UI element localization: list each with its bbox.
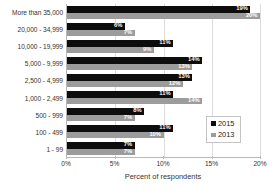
x-tick-mark [163,156,164,159]
bar-value-label: 14% [188,57,202,63]
legend-item-2015[interactable]: 2015 [211,120,234,127]
bar-2015[interactable]: 11% [67,91,173,98]
bar-row: 7% [67,30,260,37]
bar-row: 19% [67,6,260,13]
bar-value-label: 13% [178,74,192,80]
category-axis-labels: More than 35,000 20,000 - 34,999 10,000 … [0,4,66,158]
bar-value-label: 11% [159,125,173,131]
bar-row: 13% [67,74,260,81]
category-label: 10,000 - 19,999 [0,38,66,55]
gridline [260,4,261,157]
bar-2013[interactable]: 9% [67,47,154,54]
bar-value-label: 8% [133,108,144,114]
bar-value-label: 7% [124,115,135,121]
x-axis: 0%5%10%15%20% [66,159,260,171]
legend-label: 2013 [218,131,234,138]
bar-2013[interactable]: 12% [67,81,183,88]
bar-value-label: 12% [169,81,183,87]
bar-2013[interactable]: 10% [67,132,164,139]
category-label: 5,000 - 9,999 [0,55,66,72]
bar-row: 11% [67,91,260,98]
bar-2013[interactable]: 20% [67,13,260,20]
bar-row: 6% [67,23,260,30]
bar-2015[interactable]: 6% [67,23,125,30]
legend-item-2013[interactable]: 2013 [211,131,234,138]
x-tick-mark [260,156,261,159]
bar-row: 20% [67,13,260,20]
bar-row: 14% [67,57,260,64]
bar-2013[interactable]: 7% [67,115,135,122]
legend-swatch-icon [211,133,216,138]
x-tick-mark [212,156,213,159]
bar-2013[interactable]: 7% [67,30,135,37]
bar-row: 9% [67,47,260,54]
x-tick-label: 15% [205,160,218,167]
category-label: 2,500 - 4,999 [0,72,66,89]
x-tick-mark [66,156,67,159]
bar-2015[interactable]: 19% [67,6,250,13]
bar-value-label: 7% [124,30,135,36]
bar-value-label: 9% [143,47,154,53]
bar-2013[interactable]: 13% [67,64,192,71]
bar-value-label: 14% [188,98,202,104]
bar-2013[interactable]: 14% [67,98,202,105]
x-tick-label: 0% [61,160,71,167]
bar-2015[interactable]: 11% [67,40,173,47]
bar-row: 7% [67,142,260,149]
bar-group: 11%9% [67,38,260,55]
x-tick-label: 20% [253,160,266,167]
bar-group: 13%12% [67,72,260,89]
bar-value-label: 11% [159,91,173,97]
bar-group: 14%13% [67,55,260,72]
x-tick-label: 10% [156,160,169,167]
bar-row: 14% [67,98,260,105]
bar-row: 7% [67,149,260,156]
bar-2015[interactable]: 8% [67,108,144,115]
bar-value-label: 20% [246,13,260,19]
category-label: 20,000 - 34,999 [0,21,66,38]
bar-2013[interactable]: 7% [67,149,135,156]
bar-value-label: 10% [149,132,163,138]
legend-swatch-icon [211,121,216,126]
bar-chart: More than 35,000 20,000 - 34,999 10,000 … [0,0,276,195]
category-label: 1,000 - 2,499 [0,90,66,107]
bar-group: 19%20% [67,4,260,21]
legend: 2015 2013 [206,116,241,143]
category-label: 500 - 999 [0,107,66,124]
category-label: More than 35,000 [0,4,66,21]
bar-group: 11%14% [67,89,260,106]
legend-label: 2015 [218,120,234,127]
x-tick-label: 5% [110,160,120,167]
category-label: 1 - 99 [0,141,66,158]
x-tick-mark [115,156,116,159]
bar-row: 11% [67,40,260,47]
x-axis-title: Percent of respondents [66,172,260,181]
bar-value-label: 7% [124,149,135,155]
bar-group: 6%7% [67,21,260,38]
bar-row: 13% [67,64,260,71]
bar-row: 8% [67,108,260,115]
bar-value-label: 13% [178,64,192,70]
bar-value-label: 11% [159,40,173,46]
bar-row: 12% [67,81,260,88]
category-label: 100 - 499 [0,124,66,141]
